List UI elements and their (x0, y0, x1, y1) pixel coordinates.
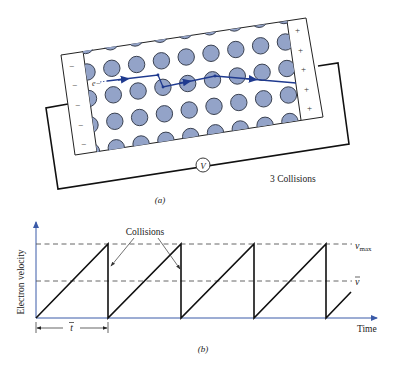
tau-label: t (70, 323, 73, 333)
svg-text:+: + (301, 64, 306, 74)
collisions-count-label: 3 Collisions (270, 174, 316, 184)
voltmeter: V (196, 158, 210, 172)
figure: − − − − − + + + + + e− V (0, 0, 395, 365)
svg-text:−: − (72, 80, 77, 90)
svg-text:−: − (81, 139, 86, 149)
svg-text:−: − (78, 120, 83, 130)
svg-text:+: + (295, 25, 300, 35)
panel-b-caption: (b) (198, 344, 209, 354)
collisions-label: Collisions (126, 227, 165, 237)
vmax-label: vmax (355, 240, 372, 253)
x-axis-label: Time (357, 324, 377, 334)
panel-a-caption: (a) (155, 195, 166, 205)
y-axis-label: Electron velocity (16, 249, 26, 314)
vbar-label: v (355, 276, 360, 287)
panel-b-velocity-chart: Electron velocity Time vmax v Collisions… (16, 222, 377, 354)
svg-text:−: − (75, 100, 80, 110)
electron-label: e− (92, 79, 101, 88)
svg-text:+: + (298, 45, 303, 55)
svg-text:+: + (304, 84, 309, 94)
svg-text:−: − (69, 61, 74, 71)
collision-arrow-1 (111, 238, 134, 266)
panel-a-conductor-diagram: − − − − − + + + + + e− V (46, 7, 349, 205)
svg-text:+: + (307, 103, 312, 113)
